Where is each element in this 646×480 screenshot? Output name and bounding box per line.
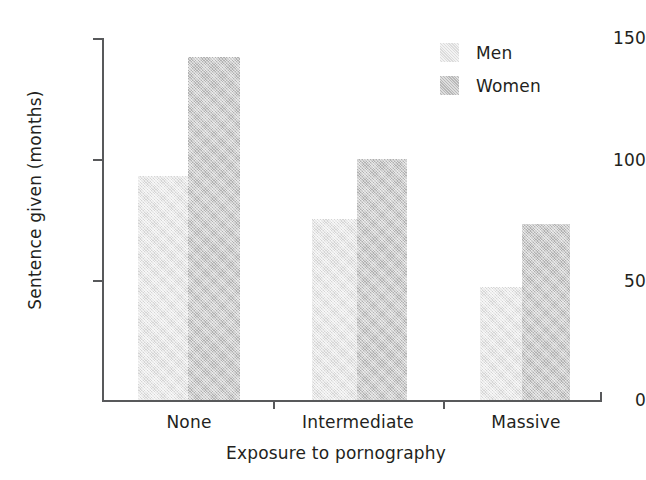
legend-label-men: Men [476, 43, 513, 63]
x-axis-right-cap [600, 392, 602, 402]
bar-men-massive [480, 287, 522, 400]
x-tick-label-intermediate: Intermediate [302, 412, 414, 432]
x-tick-mark-1 [273, 400, 275, 409]
x-axis-title-text: Exposure to pornography [200, 443, 446, 463]
y-tick-mark-100 [93, 159, 102, 161]
legend-item-men: Men [440, 36, 541, 69]
legend-swatch-men-icon [440, 43, 459, 62]
x-tick-mark-2 [443, 400, 445, 409]
bar-men-intermediate [312, 219, 357, 400]
bar-women-none [188, 57, 240, 400]
bar-men-none [138, 176, 188, 400]
y-tick-mark-50 [93, 280, 102, 282]
bar-women-massive [522, 224, 570, 400]
legend-label-women: Women [476, 76, 541, 96]
legend-swatch-women-icon [440, 76, 459, 95]
y-tick-mark-150 [93, 38, 102, 40]
x-axis-title: Exposure to pornography [0, 443, 646, 463]
bar-chart: Sentence given (months) 150 100 50 0 Non… [0, 0, 646, 480]
x-axis-line [102, 400, 602, 402]
y-axis-title: Sentence given (months) [25, 35, 45, 365]
legend-item-women: Women [440, 69, 541, 102]
x-tick-label-massive: Massive [491, 412, 560, 432]
x-tick-label-none: None [166, 412, 211, 432]
legend: Men Women [440, 36, 541, 102]
bar-women-intermediate [357, 159, 407, 400]
